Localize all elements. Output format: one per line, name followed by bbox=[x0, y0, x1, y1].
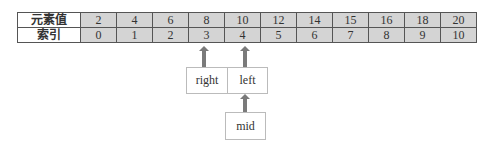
index-cell: 10 bbox=[441, 28, 477, 43]
values-row-label: 元素值 bbox=[18, 13, 81, 28]
value-cell: 15 bbox=[333, 13, 369, 28]
value-cell: 8 bbox=[189, 13, 225, 28]
index-cell: 0 bbox=[81, 28, 117, 43]
value-cell: 10 bbox=[225, 13, 261, 28]
value-cell: 6 bbox=[153, 13, 189, 28]
index-cell: 7 bbox=[333, 28, 369, 43]
left-arrow-icon bbox=[243, 50, 247, 67]
right-pointer-box: right bbox=[186, 67, 228, 94]
index-cell: 3 bbox=[189, 28, 225, 43]
index-cell: 9 bbox=[405, 28, 441, 43]
mid-arrow-icon bbox=[243, 98, 247, 113]
value-cell: 2 bbox=[81, 13, 117, 28]
index-cell: 1 bbox=[117, 28, 153, 43]
index-cell: 5 bbox=[261, 28, 297, 43]
index-row: 索引 0 1 2 3 4 5 6 7 8 9 10 bbox=[18, 28, 477, 43]
index-cell: 8 bbox=[369, 28, 405, 43]
right-arrow-icon bbox=[202, 50, 206, 67]
value-cell: 16 bbox=[369, 13, 405, 28]
array-table: 元素值 2 4 6 8 10 12 14 15 16 18 20 索引 0 1 … bbox=[17, 12, 477, 43]
index-cell: 4 bbox=[225, 28, 261, 43]
value-cell: 12 bbox=[261, 13, 297, 28]
index-cell: 6 bbox=[297, 28, 333, 43]
index-cell: 2 bbox=[153, 28, 189, 43]
mid-pointer-box: mid bbox=[225, 112, 266, 140]
value-cell: 18 bbox=[405, 13, 441, 28]
value-cell: 20 bbox=[441, 13, 477, 28]
values-row: 元素值 2 4 6 8 10 12 14 15 16 18 20 bbox=[18, 13, 477, 28]
value-cell: 4 bbox=[117, 13, 153, 28]
index-row-label: 索引 bbox=[18, 28, 81, 43]
value-cell: 14 bbox=[297, 13, 333, 28]
left-pointer-box: left bbox=[227, 67, 268, 94]
